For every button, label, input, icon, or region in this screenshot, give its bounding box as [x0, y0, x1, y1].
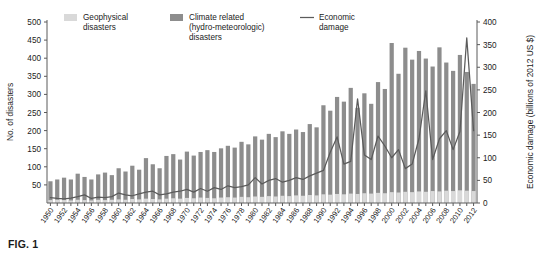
bar-climate-1976	[226, 146, 230, 203]
x-tick-2004: 2004	[407, 206, 424, 225]
right-tick-350: 350	[483, 41, 497, 50]
right-tick-250: 250	[483, 86, 497, 95]
bar-climate-1979	[246, 144, 250, 203]
legend-label-0-1: disasters	[83, 23, 116, 32]
x-tick-1996: 1996	[352, 206, 369, 225]
bar-climate-1972	[198, 152, 202, 203]
bar-climate-1960	[117, 168, 121, 203]
bar-climate-1974	[212, 152, 216, 203]
bar-climate-1977	[233, 148, 237, 203]
bar-geophysical-1981	[260, 197, 264, 203]
bar-geophysical-2005	[424, 192, 428, 203]
bar-geophysical-1991	[328, 195, 332, 203]
bar-geophysical-1985	[287, 196, 291, 203]
bar-geophysical-2002	[403, 192, 407, 203]
bar-climate-1956	[89, 179, 93, 203]
x-tick-1988: 1988	[298, 206, 315, 225]
right-axis: 050100150200250300350400	[477, 18, 497, 208]
left-tick-300: 300	[27, 90, 41, 99]
right-tick-0: 0	[483, 199, 488, 208]
bar-climate-1950	[48, 181, 52, 203]
bar-geophysical-2006	[431, 191, 435, 203]
bar-geophysical-1994	[349, 194, 353, 203]
bar-climate-1986	[294, 130, 298, 203]
left-tick-350: 350	[27, 72, 41, 81]
bar-geophysical-2003	[410, 192, 414, 203]
bar-climate-1970	[185, 152, 189, 203]
right-axis-title: Economic damage (billions of 2012 US $)	[525, 35, 535, 189]
bar-geophysical-1998	[376, 193, 380, 203]
legend-label-1-2: disasters	[189, 33, 222, 42]
legend-label-1-0: Climate related	[189, 13, 245, 22]
bar-climate-1980	[253, 136, 257, 203]
bar-climate-1983	[274, 137, 278, 203]
bar-climate-1967	[164, 156, 168, 203]
bar-climate-1958	[103, 173, 107, 203]
bar-geophysical-1976	[226, 197, 230, 203]
bar-geophysical-1989	[314, 195, 318, 203]
bar-climate-1985	[287, 134, 291, 203]
bar-climate-1959	[110, 175, 114, 203]
right-tick-50: 50	[483, 176, 493, 185]
bar-geophysical-2010	[458, 190, 462, 203]
bar-geophysical-1978	[239, 197, 243, 203]
x-tick-2002: 2002	[393, 206, 410, 225]
bar-geophysical-1987	[301, 196, 305, 203]
bar-geophysical-1965	[151, 199, 155, 203]
x-tick-1964: 1964	[134, 206, 151, 225]
x-tick-1960: 1960	[107, 206, 124, 225]
figure-container: GeophysicaldisastersClimate related(hydr…	[0, 0, 545, 230]
x-tick-1992: 1992	[325, 206, 342, 225]
bar-climate-1996	[362, 93, 366, 203]
bar-climate-1978	[239, 142, 243, 203]
bar-climate-2003	[410, 60, 414, 203]
x-tick-1982: 1982	[257, 206, 274, 225]
bar-climate-1968	[171, 154, 175, 203]
bar-geophysical-2008	[444, 191, 448, 203]
bar-climate-1961	[123, 172, 127, 203]
bar-climate-1964	[144, 158, 148, 203]
x-tick-1956: 1956	[79, 206, 96, 225]
bar-geophysical-2000	[390, 192, 394, 203]
left-tick-200: 200	[27, 127, 41, 136]
bar-climate-1963	[137, 170, 141, 203]
bar-climate-1982	[267, 134, 271, 203]
bar-geophysical-1960	[117, 199, 121, 203]
legend-swatch-0	[64, 14, 77, 21]
bar-climate-1953	[69, 179, 73, 203]
bar-climate-1966	[158, 168, 162, 203]
bar-climate-1988	[308, 124, 312, 203]
left-axis-title: No. of disasters	[5, 83, 15, 141]
bar-climate-2009	[451, 71, 455, 203]
bar-climate-1962	[130, 166, 134, 203]
bar-climate-2006	[431, 67, 435, 203]
x-tick-1962: 1962	[120, 206, 137, 225]
disasters-and-economic-damage-chart: GeophysicaldisastersClimate related(hydr…	[0, 0, 545, 230]
bar-geophysical-1983	[274, 196, 278, 203]
right-tick-100: 100	[483, 154, 497, 163]
left-tick-50: 50	[32, 181, 42, 190]
left-tick-100: 100	[27, 163, 41, 172]
x-tick-1980: 1980	[243, 206, 260, 225]
stacked-bars	[48, 43, 475, 203]
legend-label-2-1: damage	[319, 23, 349, 32]
bar-climate-1951	[55, 179, 59, 203]
bar-geophysical-1972	[198, 198, 202, 203]
bar-geophysical-1970	[185, 198, 189, 203]
x-tick-1984: 1984	[271, 206, 288, 225]
bar-geophysical-1977	[233, 198, 237, 203]
x-tick-1970: 1970	[175, 206, 192, 225]
bar-geophysical-1986	[294, 195, 298, 203]
x-tick-1974: 1974	[202, 206, 219, 225]
bar-geophysical-1993	[342, 194, 346, 203]
left-tick-500: 500	[27, 18, 41, 27]
bar-geophysical-1990	[321, 194, 325, 203]
x-tick-1972: 1972	[189, 206, 206, 225]
x-tick-1952: 1952	[52, 206, 69, 225]
bar-geophysical-1996	[362, 193, 366, 203]
bar-geophysical-2007	[437, 191, 441, 203]
x-tick-1986: 1986	[284, 206, 301, 225]
left-tick-400: 400	[27, 54, 41, 63]
x-tick-2006: 2006	[421, 206, 438, 225]
right-tick-400: 400	[483, 18, 497, 27]
